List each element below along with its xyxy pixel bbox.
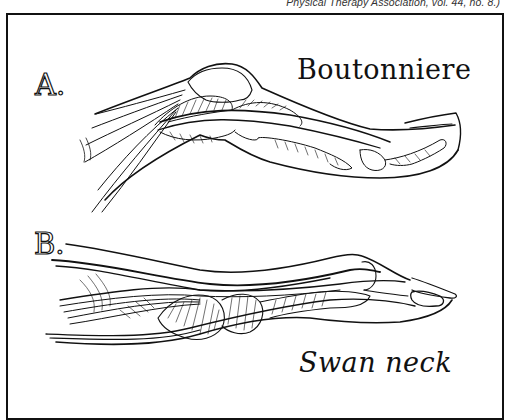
finger-illustrations bbox=[0, 0, 506, 420]
swan-neck-finger-drawing bbox=[46, 244, 456, 344]
boutonniere-finger-drawing bbox=[80, 64, 460, 212]
